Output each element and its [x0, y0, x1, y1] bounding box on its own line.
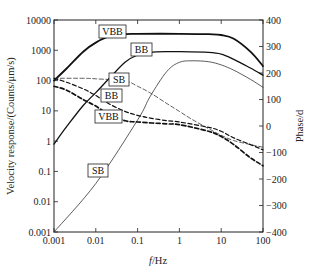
svg-text:SB: SB: [92, 165, 105, 176]
y2-tick-label: 300: [266, 41, 281, 52]
y-tick-label: 1: [46, 136, 51, 147]
y2-tick-label: 0: [266, 121, 271, 132]
y2-tick-label: −200: [266, 174, 287, 185]
y-axis-title: Velocity response/(Counts/μm/s): [5, 57, 17, 195]
vbb-phase-curve: [54, 86, 263, 166]
label-bb-phase: BB: [101, 89, 122, 102]
y-tick-label: 0.1: [39, 166, 52, 177]
y-tick-label: 10: [41, 105, 51, 116]
label-vbb-phase: VBB: [95, 110, 122, 123]
x-tick-label: 10: [216, 235, 226, 246]
x-tick-label: 0.1: [131, 235, 144, 246]
sb-amplitude-curve: [54, 61, 263, 232]
x-axis-ticks: 0.0010.010.1110100: [43, 20, 271, 246]
y-tick-label: 10000: [26, 15, 51, 26]
svg-text:VBB: VBB: [98, 111, 119, 122]
label-sb-amplitude: SB: [88, 164, 108, 177]
x-axis-title: f/Hz: [149, 255, 167, 266]
bb-amplitude-curve: [54, 52, 263, 145]
svg-text:VBB: VBB: [102, 26, 123, 37]
y2-tick-label: 100: [266, 94, 281, 105]
y2-tick-label: −100: [266, 147, 287, 158]
vbb-amplitude-curve: [54, 34, 263, 81]
response-chart: 0.0010.010.1110100 0.0010.010.1110100100…: [0, 0, 313, 274]
y-axis-ticks: 0.0010.010.1110100100010000: [26, 15, 58, 238]
label-sb-phase: SB: [109, 73, 129, 86]
x-tick-label: 1: [177, 235, 182, 246]
x-tick-label: 0.01: [87, 235, 105, 246]
y2-tick-label: −300: [266, 200, 287, 211]
y-tick-label: 100: [36, 75, 51, 86]
label-vbb-amplitude: VBB: [99, 25, 126, 38]
y2-tick-label: −400: [266, 227, 287, 238]
y-tick-label: 1000: [31, 45, 51, 56]
svg-text:BB: BB: [135, 44, 149, 55]
label-bb-amplitude: BB: [131, 43, 152, 56]
y2-tick-label: 400: [266, 15, 281, 26]
curves: [54, 34, 263, 232]
svg-text:BB: BB: [105, 90, 119, 101]
svg-text:SB: SB: [113, 74, 126, 85]
bb-phase-curve: [54, 78, 263, 150]
y2-tick-label: 200: [266, 68, 281, 79]
y-tick-label: 0.01: [34, 196, 52, 207]
y-tick-label: 0.001: [29, 227, 52, 238]
y2-axis-title: Phase/d: [294, 109, 305, 142]
